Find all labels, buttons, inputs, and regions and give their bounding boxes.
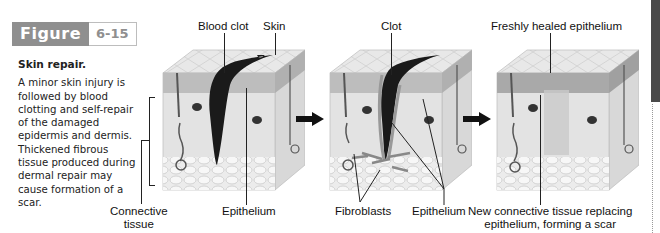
label-epithelium-1: Epithelium xyxy=(222,205,276,218)
label-clot: Clot xyxy=(381,20,401,33)
leader-clot xyxy=(391,33,392,75)
connective-line1: Connective xyxy=(110,205,168,217)
connective-line2: tissue xyxy=(124,218,154,230)
figure-title: Skin repair. xyxy=(18,58,136,71)
figure-label: Figure xyxy=(12,22,89,46)
leader-scar xyxy=(540,95,541,205)
figure-caption: Skin repair. A minor skin injury is foll… xyxy=(18,58,136,209)
skin-block-healed xyxy=(489,45,639,195)
bracket-top xyxy=(149,97,155,98)
page-edge-tab xyxy=(651,0,660,102)
label-scar: New connective tissue replacing epitheli… xyxy=(468,205,632,231)
arrow-right-icon xyxy=(463,112,491,126)
bracket-connective xyxy=(149,97,150,185)
leader-blood-clot xyxy=(224,33,225,73)
figure-caption-text: A minor skin injury is followed by blood… xyxy=(18,77,135,208)
label-blood-clot: Blood clot xyxy=(198,20,249,33)
label-connective-tissue: Connective tissue xyxy=(110,205,168,231)
scar-line1: New connective tissue replacing xyxy=(468,205,632,217)
figure-number: 6-15 xyxy=(89,22,137,46)
leader-epithelium-1 xyxy=(246,88,247,205)
label-epithelium-2: Epithelium xyxy=(412,205,466,218)
leader-healed xyxy=(550,33,551,73)
label-skin: Skin xyxy=(263,20,285,33)
leader-connective xyxy=(141,140,149,141)
page-margin-rule xyxy=(652,104,653,233)
leader-epithelium-2 xyxy=(388,95,448,205)
leader-connective-v xyxy=(141,140,142,204)
label-freshly-healed-epithelium: Freshly healed epithelium xyxy=(491,20,622,33)
leader-skin xyxy=(275,33,276,55)
figure-header: Figure 6-15 xyxy=(12,22,137,46)
label-fibroblasts: Fibroblasts xyxy=(335,205,391,218)
bracket-bottom xyxy=(149,185,155,186)
arrow-right-icon xyxy=(296,112,324,126)
scar-line2: epithelium, forming a scar xyxy=(484,218,616,230)
skin-block-injury xyxy=(155,45,305,195)
